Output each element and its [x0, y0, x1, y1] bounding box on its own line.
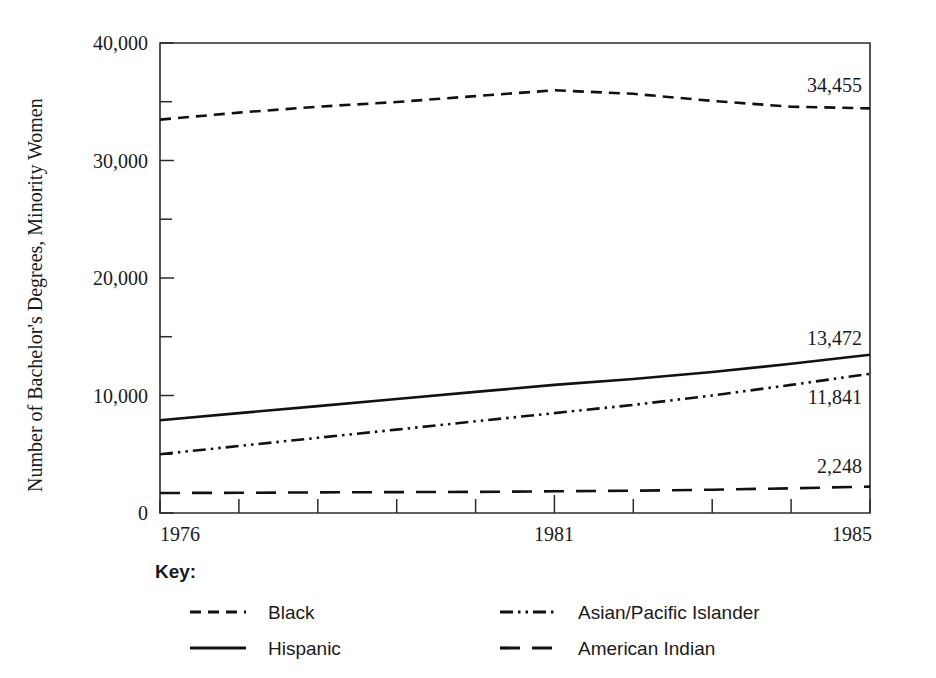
y-tick-label-30000: 30,000 [93, 150, 148, 172]
y-tick-label-0: 0 [138, 502, 148, 524]
legend-item-black: Black [190, 602, 315, 623]
series-line-black [160, 90, 870, 119]
chart-figure: 40,000 30,000 20,000 10,000 0 Number of … [0, 0, 936, 678]
y-tick-label-10000: 10,000 [93, 385, 148, 407]
legend-label-american-indian: American Indian [578, 638, 715, 659]
series-line-asian-pacific-islander [160, 374, 870, 454]
y-tick-label-20000: 20,000 [93, 267, 148, 289]
legend-title: Key: [155, 561, 196, 582]
legend-label-black: Black [268, 602, 315, 623]
legend-label-hispanic: Hispanic [268, 638, 341, 659]
legend-label-asian-pacific-islander: Asian/Pacific Islander [578, 602, 760, 623]
value-label-hispanic: 13,472 [807, 327, 862, 349]
value-label-asian-pacific-islander: 11,841 [808, 386, 862, 408]
x-tick-label-1985: 1985 [832, 523, 872, 545]
value-label-american-indian: 2,248 [817, 455, 862, 477]
y-axis-major-ticks [160, 43, 174, 513]
series-line-american-indian [160, 487, 870, 493]
line-chart: 40,000 30,000 20,000 10,000 0 Number of … [0, 0, 936, 678]
y-tick-label-40000: 40,000 [93, 32, 148, 54]
series-line-hispanic [160, 355, 870, 421]
legend-item-asian-pacific-islander: Asian/Pacific Islander [500, 602, 760, 623]
y-axis-title: Number of Bachelor's Degrees, Minority W… [24, 98, 47, 492]
x-tick-label-1981: 1981 [534, 523, 574, 545]
x-tick-label-1976: 1976 [160, 523, 200, 545]
legend-item-hispanic: Hispanic [190, 638, 341, 659]
x-axis-ticks [160, 495, 870, 513]
legend-item-american-indian: American Indian [500, 638, 715, 659]
value-label-black: 34,455 [807, 74, 862, 96]
